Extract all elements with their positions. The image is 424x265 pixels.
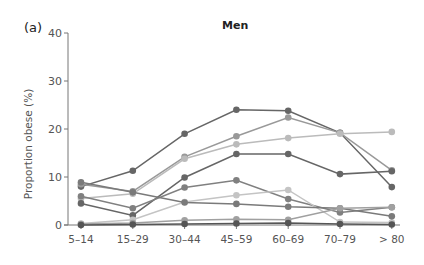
data-point [285,114,292,121]
data-point [78,200,85,207]
data-point [233,151,240,158]
data-point [233,107,240,114]
x-tick-label: 15–29 [117,233,149,245]
data-point [130,189,137,196]
series-lines [78,107,395,229]
axes: 0102030405–1415–2930–4445–5960–6970–79> … [48,27,405,245]
data-point [181,199,188,206]
data-point [285,196,292,203]
data-point [233,141,240,148]
data-point [389,129,396,136]
data-point [337,221,344,228]
data-point [285,151,292,158]
line-chart: 0102030405–1415–2930–4445–5960–6970–79> … [0,0,424,265]
y-tick-label: 40 [48,27,62,40]
series-line [81,110,392,187]
data-point [233,220,240,227]
data-point [285,187,292,194]
data-point [130,205,137,212]
data-point [389,184,396,191]
data-point [285,107,292,114]
y-tick-label: 30 [48,75,62,88]
data-point [337,131,344,138]
data-point [233,133,240,140]
data-point [233,201,240,208]
x-tick-label: 5–14 [68,233,94,245]
data-point [389,168,396,175]
data-point [130,221,137,228]
x-tick-label: 60–69 [272,233,304,245]
x-tick-label: 30–44 [169,233,201,245]
data-point [78,222,85,229]
data-point [337,171,344,178]
data-point [181,221,188,228]
data-point [285,203,292,210]
data-point [181,155,188,162]
x-tick-label: > 80 [379,233,405,245]
y-tick-label: 0 [55,219,62,232]
data-point [78,193,85,200]
data-point [181,174,188,181]
data-point [389,221,396,228]
x-tick-label: 70–79 [324,233,356,245]
data-point [233,177,240,184]
data-point [233,192,240,199]
data-point [130,167,137,174]
data-point [285,220,292,227]
x-tick-label: 45–59 [220,233,252,245]
data-point [181,184,188,191]
y-tick-label: 10 [48,171,62,184]
data-point [337,205,344,212]
data-point [389,213,396,220]
y-tick-label: 20 [48,123,62,136]
data-point [181,131,188,138]
data-point [78,179,85,186]
data-point [285,135,292,142]
data-point [389,204,396,211]
